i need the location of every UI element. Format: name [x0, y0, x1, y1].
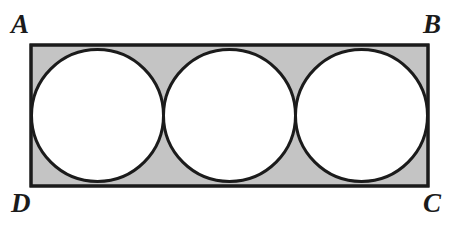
geometry-figure: A B D C	[0, 0, 456, 230]
inscribed-circle-left	[32, 50, 164, 182]
geometry-canvas	[0, 0, 456, 230]
vertex-label-a: A	[11, 11, 29, 38]
vertex-label-b: B	[423, 11, 441, 38]
vertex-label-c: C	[423, 190, 441, 217]
inscribed-circle-middle	[164, 50, 296, 182]
vertex-label-d: D	[11, 190, 31, 217]
inscribed-circle-right	[296, 50, 428, 182]
